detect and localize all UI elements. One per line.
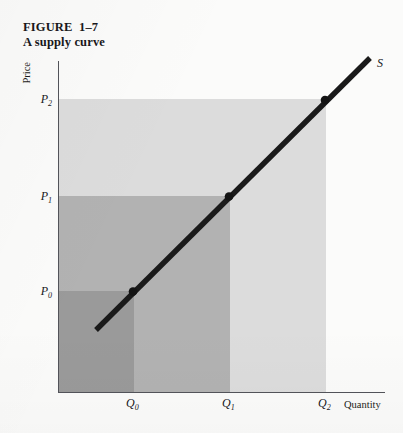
supply-curve-label: S (377, 56, 383, 71)
supply-point-q1p1 (225, 192, 234, 201)
supply-point-q0p0 (129, 287, 138, 296)
supply-curve-plot: Price Quantity P2 P1 P0 Q0 Q1 Q2 S (0, 0, 403, 433)
figure-page: FIGURE 1–7 A supply curve Price Quantity… (0, 0, 403, 433)
supply-point-q2p2 (321, 96, 330, 105)
supply-curve-svg (0, 0, 403, 433)
